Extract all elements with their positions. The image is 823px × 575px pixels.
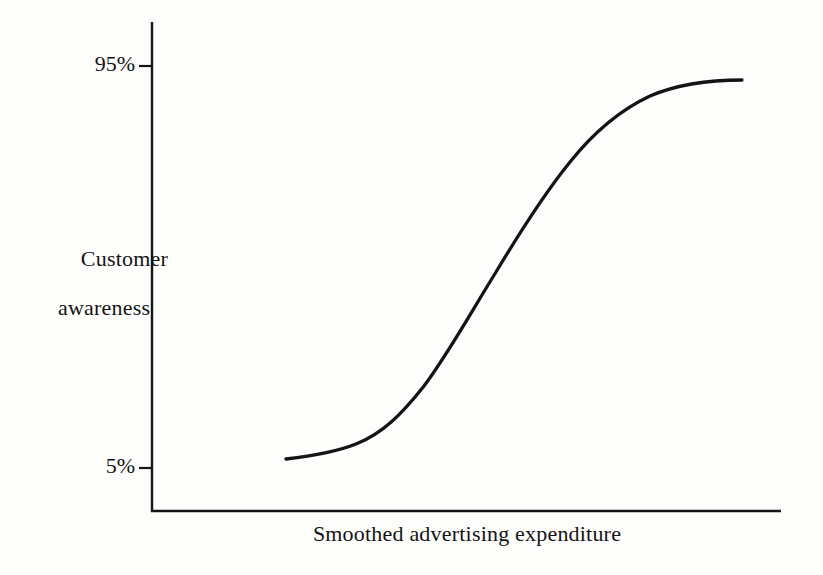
x-axis-title: Smoothed advertising expenditure <box>0 522 823 547</box>
awareness-curve <box>286 80 742 459</box>
y-axis-title-line-2: awareness <box>58 296 168 321</box>
y-axis-title-line-1: Customer <box>81 246 168 271</box>
y-axis-tick-label-top: 95% <box>95 52 135 77</box>
advertising-response-chart: 95% 5% Customer awareness Smoothed adver… <box>0 0 823 575</box>
y-axis-tick-label-bottom: 5% <box>106 454 135 479</box>
y-axis-title: Customer awareness <box>58 222 168 370</box>
